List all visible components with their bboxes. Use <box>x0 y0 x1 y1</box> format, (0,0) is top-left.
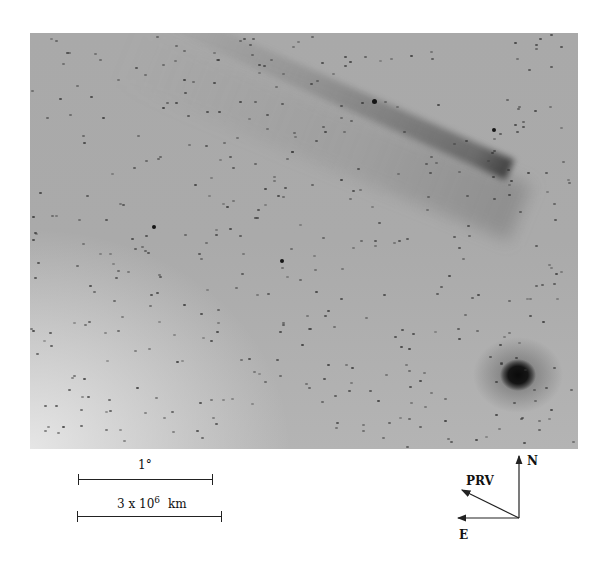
star <box>448 275 451 277</box>
star <box>419 380 422 382</box>
star <box>556 298 559 300</box>
star <box>383 294 386 296</box>
star <box>341 268 344 270</box>
star <box>534 110 537 112</box>
star <box>394 336 397 338</box>
star <box>522 126 525 128</box>
star <box>83 142 86 144</box>
scale-bar-degree <box>78 479 213 480</box>
star <box>281 267 284 269</box>
star <box>487 160 490 162</box>
star <box>34 277 37 279</box>
star <box>430 51 433 53</box>
star <box>352 190 355 192</box>
star <box>111 173 114 175</box>
star <box>99 253 102 255</box>
star <box>82 135 85 137</box>
star <box>400 346 403 348</box>
star <box>388 422 391 424</box>
star <box>301 344 304 346</box>
star <box>430 392 433 394</box>
star <box>538 420 541 422</box>
star <box>495 414 498 416</box>
comet-photograph <box>30 33 578 449</box>
star <box>424 406 427 408</box>
star <box>133 167 136 169</box>
star <box>306 315 309 317</box>
star <box>562 161 565 163</box>
star <box>215 423 218 425</box>
star <box>516 58 519 60</box>
star <box>568 182 571 184</box>
star <box>553 203 556 205</box>
star <box>31 90 34 92</box>
star <box>550 34 553 36</box>
star <box>62 426 65 428</box>
star <box>215 234 218 236</box>
star <box>364 56 367 58</box>
star <box>528 69 531 71</box>
star <box>217 322 220 324</box>
star <box>144 250 147 252</box>
star <box>493 150 496 152</box>
star <box>553 367 556 369</box>
star <box>240 359 243 361</box>
star <box>345 364 348 366</box>
star <box>279 375 282 377</box>
star <box>352 247 355 249</box>
star <box>239 235 242 237</box>
star <box>158 321 161 323</box>
star <box>359 189 362 191</box>
star <box>495 381 498 383</box>
star <box>80 409 83 411</box>
prv-arrow-icon <box>462 490 519 518</box>
star <box>109 253 112 255</box>
star <box>408 370 411 372</box>
star <box>241 273 244 275</box>
star <box>32 239 35 241</box>
star <box>361 102 364 104</box>
star <box>406 238 409 240</box>
star <box>232 167 235 169</box>
star <box>508 332 511 334</box>
star <box>506 99 509 101</box>
compass-east-label: E <box>459 528 468 542</box>
star <box>194 184 197 186</box>
star <box>426 209 429 211</box>
star <box>206 289 209 291</box>
star <box>57 432 60 434</box>
star <box>173 334 176 336</box>
scale-label-distance-exponent: 6 <box>154 495 160 505</box>
star <box>519 211 522 213</box>
star <box>163 417 166 419</box>
star <box>431 58 434 60</box>
star <box>122 204 125 206</box>
star <box>349 61 352 63</box>
star <box>248 358 251 360</box>
star <box>222 203 225 205</box>
star <box>491 152 494 154</box>
star <box>158 274 161 276</box>
star <box>257 209 260 211</box>
star <box>87 396 90 398</box>
star <box>560 127 563 129</box>
star <box>263 65 266 67</box>
star <box>321 401 324 403</box>
star <box>149 305 152 307</box>
star <box>327 310 330 312</box>
star <box>123 440 126 442</box>
star <box>419 426 422 428</box>
star <box>215 229 218 231</box>
star <box>50 345 53 347</box>
star <box>529 315 532 317</box>
star <box>99 59 102 61</box>
star <box>172 431 175 433</box>
star <box>254 163 257 165</box>
star <box>159 156 162 158</box>
star <box>499 344 502 346</box>
star <box>534 400 537 402</box>
star <box>550 267 553 269</box>
star <box>36 353 39 355</box>
star <box>520 418 523 420</box>
star <box>73 322 76 324</box>
